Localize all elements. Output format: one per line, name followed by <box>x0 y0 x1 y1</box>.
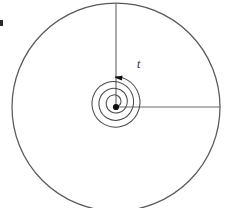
center-point-dot <box>113 104 119 110</box>
figure-container: t <box>0 0 233 208</box>
time-parameter-label: t <box>137 58 140 70</box>
spiral-diagram-svg <box>0 0 233 208</box>
scan-edge-artifact <box>0 20 3 26</box>
